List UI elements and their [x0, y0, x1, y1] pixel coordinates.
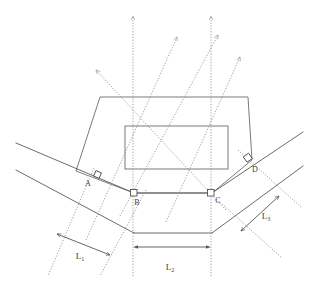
right-angle-mark-a	[94, 171, 102, 179]
point-label-d: D	[252, 165, 258, 174]
point-label-b: B	[134, 198, 139, 207]
dimension-label-l3: L3	[262, 211, 271, 222]
left-roadway	[16, 143, 134, 233]
technical-diagram: L1 L2 L3	[0, 0, 318, 281]
dimension-l2: L2	[134, 247, 210, 273]
right-angle-mark-c	[208, 190, 215, 197]
inner-rectangle	[125, 126, 228, 169]
point-label-c: C	[215, 196, 220, 205]
point-labels: A B C D	[85, 165, 258, 207]
outer-island-polygon	[76, 97, 252, 193]
center-carriageway-lines	[134, 193, 212, 233]
diagram-canvas: L1 L2 L3	[0, 0, 318, 281]
dimension-l3: L3	[241, 196, 279, 231]
point-label-a: A	[85, 179, 91, 188]
dimension-l1: L1	[57, 234, 110, 262]
right-roadway	[212, 132, 303, 233]
dimension-label-l1: L1	[76, 251, 85, 262]
diagonal-sight-lines	[86, 35, 240, 240]
right-angle-marks	[94, 153, 253, 196]
vertical-sight-lines	[133, 16, 211, 276]
l1-extension-lines	[48, 168, 146, 276]
right-angle-mark-b	[131, 190, 138, 197]
l3-extension-lines	[222, 150, 302, 258]
dimension-label-l2: L2	[166, 262, 175, 273]
